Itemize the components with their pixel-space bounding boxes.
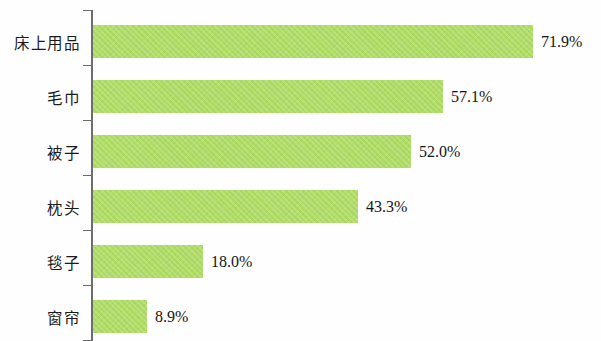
bar-row: 毛巾 57.1% xyxy=(0,69,601,124)
category-label: 枕头 xyxy=(0,179,80,234)
bar-track xyxy=(93,80,443,113)
plot-area: 床上用品 71.9% 毛巾 57.1% 被子 52.0% 枕头 xyxy=(0,0,601,341)
bar-track xyxy=(93,300,147,333)
bar-row: 枕头 43.3% xyxy=(0,179,601,234)
category-label: 毯子 xyxy=(0,234,80,289)
bar-track xyxy=(93,135,411,168)
value-label: 57.1% xyxy=(451,80,492,113)
value-label: 52.0% xyxy=(419,135,460,168)
category-label: 床上用品 xyxy=(0,14,80,69)
bar xyxy=(93,245,203,278)
value-label: 18.0% xyxy=(211,245,252,278)
value-label: 71.9% xyxy=(541,25,582,58)
axis-tick xyxy=(83,10,92,11)
category-label: 窗帘 xyxy=(0,289,80,341)
category-label: 毛巾 xyxy=(0,69,80,124)
horizontal-bar-chart: 床上用品 71.9% 毛巾 57.1% 被子 52.0% 枕头 xyxy=(0,0,601,341)
bar xyxy=(93,25,533,58)
bar-track xyxy=(93,25,533,58)
bar xyxy=(93,135,411,168)
bar-row: 窗帘 8.9% xyxy=(0,289,601,341)
value-label: 43.3% xyxy=(366,190,407,223)
bar xyxy=(93,300,147,333)
category-label: 被子 xyxy=(0,124,80,179)
value-label: 8.9% xyxy=(155,300,188,333)
bar-track xyxy=(93,190,358,223)
bar-row: 毯子 18.0% xyxy=(0,234,601,289)
bar-track xyxy=(93,245,203,278)
bar-row: 床上用品 71.9% xyxy=(0,14,601,69)
bar-row: 被子 52.0% xyxy=(0,124,601,179)
bar xyxy=(93,190,358,223)
bar xyxy=(93,80,443,113)
